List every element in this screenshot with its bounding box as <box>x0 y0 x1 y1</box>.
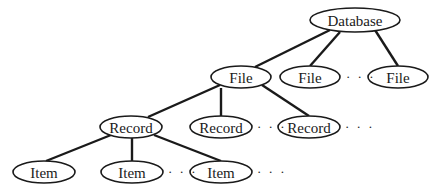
node-label: Item <box>207 165 235 181</box>
continuation-dots: · · · <box>345 119 375 134</box>
node-file: File <box>280 66 340 88</box>
node-label: Record <box>199 120 243 136</box>
edge-file1-rec3 <box>262 85 309 116</box>
node-file: File <box>211 66 271 88</box>
continuation-dots: · · · <box>346 69 376 84</box>
node-label: Item <box>118 165 146 181</box>
node-file: File <box>368 66 428 88</box>
node-item: Item <box>190 161 252 183</box>
node-item: Item <box>13 161 75 183</box>
edge-rec1-item3 <box>154 135 221 161</box>
node-label: Database <box>328 13 383 29</box>
continuation-dots: · · · <box>257 119 287 134</box>
edge-file1-rec1 <box>148 85 220 117</box>
node-record: Record <box>190 116 252 138</box>
edges-layer <box>46 30 398 161</box>
continuation-dots: · · · <box>168 164 198 179</box>
node-record: Record <box>100 116 162 138</box>
node-item: Item <box>101 161 163 183</box>
edge-db-file1 <box>255 30 330 67</box>
continuation-dots: · · · <box>257 164 287 179</box>
edge-db-file3 <box>375 30 398 66</box>
node-database: Database <box>310 8 400 32</box>
node-record: Record <box>278 116 340 138</box>
node-label: File <box>298 70 322 86</box>
node-label: File <box>386 70 410 86</box>
node-label: File <box>229 70 253 86</box>
node-label: Item <box>30 165 58 181</box>
node-label: Record <box>287 120 331 136</box>
hierarchy-diagram: DatabaseFileFileFileRecordRecordRecordIt… <box>0 0 442 192</box>
edge-rec1-item1 <box>46 135 111 161</box>
node-label: Record <box>109 120 153 136</box>
